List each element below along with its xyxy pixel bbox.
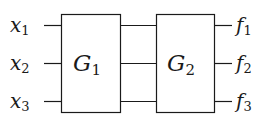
block-label-g1: G1 [73, 50, 101, 79]
block-label-g2: G2 [167, 50, 195, 79]
output-label-3: f3 [234, 89, 252, 114]
input-label-2: x2 [10, 51, 30, 76]
input-label-1: x1 [10, 13, 30, 38]
output-label-1: f1 [234, 13, 252, 38]
input-label-3: x3 [10, 89, 30, 114]
block-diagram: x1 x2 x3 G1 G2 f1 f2 f3 [0, 0, 268, 121]
output-label-2: f2 [234, 51, 252, 76]
